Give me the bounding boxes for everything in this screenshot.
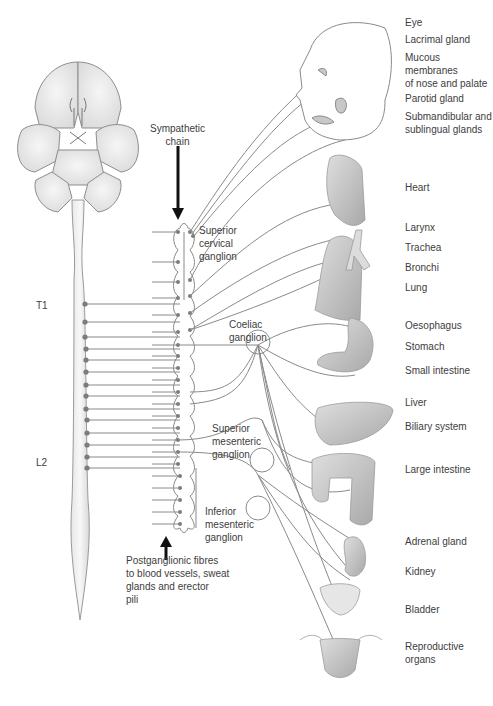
- organ-label-larynx: Larynx: [405, 221, 435, 234]
- brain: [18, 62, 139, 212]
- liver: [315, 402, 393, 445]
- chain-side-fibres: [152, 232, 178, 524]
- label-t1: T1: [36, 299, 48, 312]
- organ-label-eye: Eye: [405, 16, 422, 29]
- organ-label-submandibular-glands: Submandibular and sublingual glands: [405, 110, 492, 136]
- organ-label-trachea: Trachea: [405, 241, 441, 254]
- organ-label-kidney: Kidney: [405, 565, 436, 578]
- arrows: [160, 146, 184, 560]
- label-l2: L2: [36, 456, 47, 469]
- organ-label-stomach: Stomach: [405, 340, 444, 353]
- heart: [327, 155, 365, 225]
- organ-label-reproductive-organs: Reproductive organs: [405, 640, 464, 666]
- organ-label-large-intestine: Large intestine: [405, 463, 471, 476]
- organ-label-adrenal-gland: Adrenal gland: [405, 535, 467, 548]
- label-sympathetic-chain: Sympathetic chain: [150, 122, 205, 148]
- organ-label-oesophagus: Oesophagus: [405, 319, 462, 332]
- organ-label-mucous-membranes: Mucous membranes of nose and palate: [405, 51, 493, 90]
- organ-label-biliary-system: Biliary system: [405, 420, 467, 433]
- large-intestine: [312, 453, 375, 525]
- sympathetic-diagram: [0, 0, 493, 706]
- label-coeliac-ganglion: Coeliac ganglion: [229, 318, 267, 344]
- label-postganglionic-note: Postganglionic fibres to blood vessels, …: [126, 554, 229, 606]
- uterus: [320, 639, 360, 678]
- kidney: [344, 537, 365, 576]
- label-superior-mesenteric-ganglion: Superior mesenteric ganglion: [212, 422, 261, 461]
- preganglionic-fibres: [85, 304, 180, 468]
- organs: [300, 155, 393, 677]
- organ-label-liver: Liver: [405, 396, 427, 409]
- organ-label-parotid-gland: Parotid gland: [405, 92, 464, 105]
- organ-label-bronchi: Bronchi: [405, 261, 439, 274]
- organ-label-small-intestine: Small intestine: [405, 364, 470, 377]
- sympathetic-chain: [174, 224, 197, 533]
- bladder: [320, 584, 360, 615]
- organ-label-lung: Lung: [405, 281, 427, 294]
- organ-label-lacrimal-gland: Lacrimal gland: [405, 33, 470, 46]
- organ-label-heart: Heart: [405, 181, 429, 194]
- label-superior-cervical-ganglion: Superior cervical ganglion: [199, 224, 237, 263]
- head: [296, 23, 391, 140]
- stomach: [317, 318, 373, 372]
- label-inferior-mesenteric-ganglion: Inferior mesenteric ganglion: [205, 505, 254, 544]
- organ-label-bladder: Bladder: [405, 603, 439, 616]
